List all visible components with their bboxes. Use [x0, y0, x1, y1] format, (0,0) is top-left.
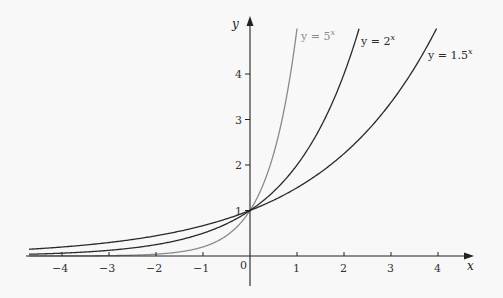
- y-axis-arrow-icon: [247, 16, 254, 26]
- curve-0: [29, 29, 297, 256]
- ticks: −4−3−2−1012341234: [52, 68, 441, 275]
- x-axis-label: x: [467, 259, 474, 273]
- x-tick-label: 4: [434, 262, 441, 275]
- x-tick-label: −4: [52, 262, 68, 275]
- exponential-functions-chart: −4−3−2−1012341234 x y y = 5xy = 2xy = 1.…: [0, 0, 503, 298]
- y-tick-label: 3: [235, 114, 242, 127]
- curve-2: [29, 28, 436, 249]
- x-tick-label: 0: [240, 259, 247, 272]
- y-tick-label: 2: [235, 159, 242, 172]
- curve-label: y = 5x: [300, 28, 335, 43]
- x-tick-label: −1: [193, 262, 209, 275]
- curve-label: y = 2x: [360, 33, 395, 48]
- curve-label: y = 1.5x: [427, 47, 473, 62]
- x-tick-label: −3: [99, 262, 115, 275]
- y-tick-label: 1: [235, 205, 242, 218]
- y-tick-label: 4: [235, 68, 242, 81]
- curves: [29, 28, 436, 256]
- y-axis-label: y: [231, 17, 239, 31]
- curve-labels: y = 5xy = 2xy = 1.5x: [300, 28, 473, 62]
- x-tick-label: 2: [340, 262, 347, 275]
- curve-1: [29, 29, 359, 254]
- x-tick-label: 3: [387, 262, 394, 275]
- axes: [26, 16, 474, 286]
- x-tick-label: 1: [293, 262, 300, 275]
- x-tick-label: −2: [146, 262, 162, 275]
